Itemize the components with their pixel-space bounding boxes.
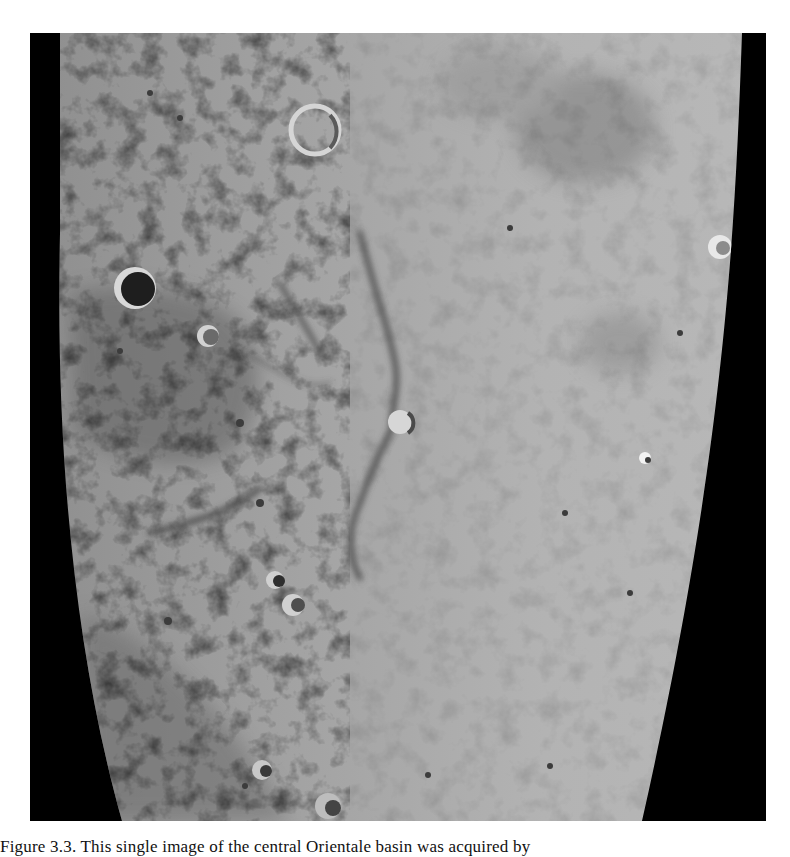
moon-surface-image: [30, 33, 766, 821]
figure-caption: Figure 3.3. This single image of the cen…: [0, 837, 790, 857]
lunar-photograph: [30, 33, 766, 821]
